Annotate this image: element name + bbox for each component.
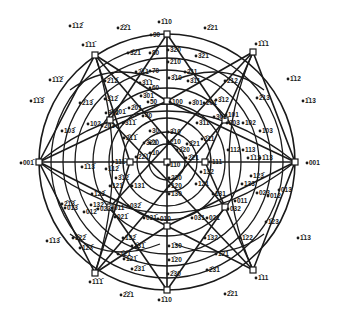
pole-dot bbox=[158, 299, 161, 302]
pole-dot bbox=[115, 177, 118, 180]
pole-label: 001̄ bbox=[23, 159, 35, 166]
pole-marker bbox=[202, 159, 208, 165]
pole-dot bbox=[20, 162, 23, 165]
pole-dot bbox=[187, 80, 190, 83]
pole-label: 021̄ bbox=[117, 213, 129, 220]
pole-dot bbox=[149, 52, 152, 55]
pole-label: 1̄13 bbox=[300, 234, 311, 241]
pole-label: 1̄23 bbox=[268, 218, 279, 225]
pole-label: 1̄1̄3̄ bbox=[33, 97, 45, 104]
pole-dot bbox=[167, 273, 170, 276]
pole-label: 3̄20 bbox=[179, 146, 190, 153]
pole-dot bbox=[206, 217, 209, 220]
pole-dot bbox=[168, 193, 171, 196]
pole-dot bbox=[140, 95, 143, 98]
pole-label: 2̄13̄ bbox=[82, 99, 94, 106]
pole-dot bbox=[168, 185, 171, 188]
pole-label: 203 bbox=[104, 122, 115, 129]
pole-dot bbox=[167, 141, 170, 144]
pole-label: 2̄10 bbox=[170, 138, 181, 145]
pole-label: 3̄01 bbox=[192, 99, 203, 106]
pole-dot bbox=[256, 192, 259, 195]
pole-label: 3̄2̄1 bbox=[130, 49, 141, 56]
pole-dot bbox=[213, 116, 216, 119]
pole-label: 2̄30 bbox=[170, 270, 181, 277]
pole-label: 1̄12 bbox=[290, 75, 301, 82]
pole-label: 112 bbox=[230, 146, 241, 153]
pole-dot bbox=[196, 122, 199, 125]
pole-dot bbox=[259, 130, 262, 133]
pole-dot bbox=[224, 293, 227, 296]
pole-dot bbox=[142, 115, 145, 118]
pole-label: 100 bbox=[172, 98, 183, 105]
pole-label: 80 bbox=[152, 49, 160, 56]
pole-label: 1̄12̄ bbox=[108, 165, 120, 172]
pole-dot bbox=[131, 245, 134, 248]
pole-dot bbox=[195, 183, 198, 186]
pole-label: 3̄21 bbox=[189, 140, 200, 147]
pole-dot bbox=[131, 185, 134, 188]
pole-dot bbox=[306, 162, 309, 165]
pole-dot bbox=[167, 49, 170, 52]
pole-label: 1̄1̄1 bbox=[258, 40, 269, 47]
pole-label: 2̄2̄1 bbox=[120, 24, 131, 31]
pole-label: 40 bbox=[145, 112, 153, 119]
pole-dot bbox=[127, 52, 130, 55]
pole-dot bbox=[147, 101, 150, 104]
pole-label: 123̄ bbox=[94, 190, 106, 197]
pole-dot bbox=[195, 55, 198, 58]
pole-dot bbox=[247, 157, 250, 160]
pole-dot bbox=[143, 217, 146, 220]
pole-label: 2̄13 bbox=[259, 94, 270, 101]
pole-dot bbox=[149, 70, 152, 73]
pole-dot bbox=[104, 80, 107, 83]
pole-dot bbox=[265, 221, 268, 224]
pole-label: 1̄22̄ bbox=[75, 234, 87, 241]
pole-label: 2̄01 bbox=[131, 104, 142, 111]
pole-dot bbox=[87, 123, 90, 126]
pole-label: 90 bbox=[153, 31, 161, 38]
pole-dot bbox=[234, 200, 237, 203]
pole-dot bbox=[204, 27, 207, 30]
pole-dot bbox=[256, 97, 259, 100]
pole-label: 120 bbox=[171, 182, 182, 189]
pole-marker bbox=[250, 49, 256, 55]
pole-dot bbox=[131, 268, 134, 271]
pole-dot bbox=[83, 211, 86, 214]
pole-dot bbox=[104, 98, 107, 101]
pole-label: 1̄11̄ bbox=[85, 41, 96, 48]
pole-label: 1̄10 bbox=[161, 18, 172, 25]
pole-label: 103 bbox=[262, 127, 273, 134]
pole-label: 101̄ bbox=[115, 108, 127, 115]
pole-dot bbox=[105, 168, 108, 171]
pole-dot bbox=[143, 142, 146, 145]
pole-label: 1̄13 bbox=[262, 154, 273, 161]
pole-marker bbox=[292, 159, 298, 165]
pole-label: 3̄1̄1 bbox=[142, 79, 153, 86]
pole-label: 001 bbox=[309, 159, 320, 166]
pole-dot bbox=[209, 161, 212, 164]
pole-label: 3̄12̄ bbox=[107, 95, 119, 102]
pole-label: 121 bbox=[198, 180, 209, 187]
pole-label: 012̄ bbox=[86, 208, 98, 215]
pole-dot bbox=[123, 137, 126, 140]
pole-label: 1̄13 bbox=[305, 97, 316, 104]
pole-label: 2̄10 bbox=[170, 58, 181, 65]
pole-dot bbox=[123, 258, 126, 261]
pole-label: 1̄11 bbox=[258, 274, 269, 281]
pole-dot bbox=[109, 185, 112, 188]
pole-dot bbox=[122, 122, 125, 125]
pole-dot bbox=[127, 205, 130, 208]
pole-dot bbox=[204, 237, 207, 240]
pole-label: 011̄ bbox=[114, 204, 125, 211]
pole-dot bbox=[227, 208, 230, 211]
pole-label: 021 bbox=[209, 214, 220, 221]
pole-dot bbox=[90, 204, 93, 207]
pole-dot bbox=[189, 102, 192, 105]
pole-dot bbox=[168, 77, 171, 80]
pole-marker bbox=[36, 159, 42, 165]
pole-label: 031 bbox=[194, 214, 205, 221]
pole-dot bbox=[79, 247, 82, 250]
pole-dot bbox=[64, 207, 67, 210]
pole-dot bbox=[185, 157, 188, 160]
